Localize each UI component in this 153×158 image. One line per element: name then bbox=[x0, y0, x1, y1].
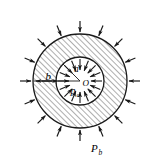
outer-pressure-subscript: b bbox=[99, 148, 103, 157]
cylinder-cross-section-svg: b a O p a P b bbox=[0, 0, 153, 158]
inner-pressure-subscript: a bbox=[77, 91, 81, 99]
outer-pressure-symbol: P bbox=[90, 142, 98, 154]
inner-radius-label: a bbox=[74, 64, 79, 74]
inner-pressure-symbol: p bbox=[70, 85, 76, 96]
figure-container: b a O p a P b bbox=[0, 0, 153, 158]
outer-radius-label: b bbox=[46, 70, 52, 82]
hatched-annulus bbox=[0, 0, 153, 158]
center-label: O bbox=[83, 78, 90, 88]
